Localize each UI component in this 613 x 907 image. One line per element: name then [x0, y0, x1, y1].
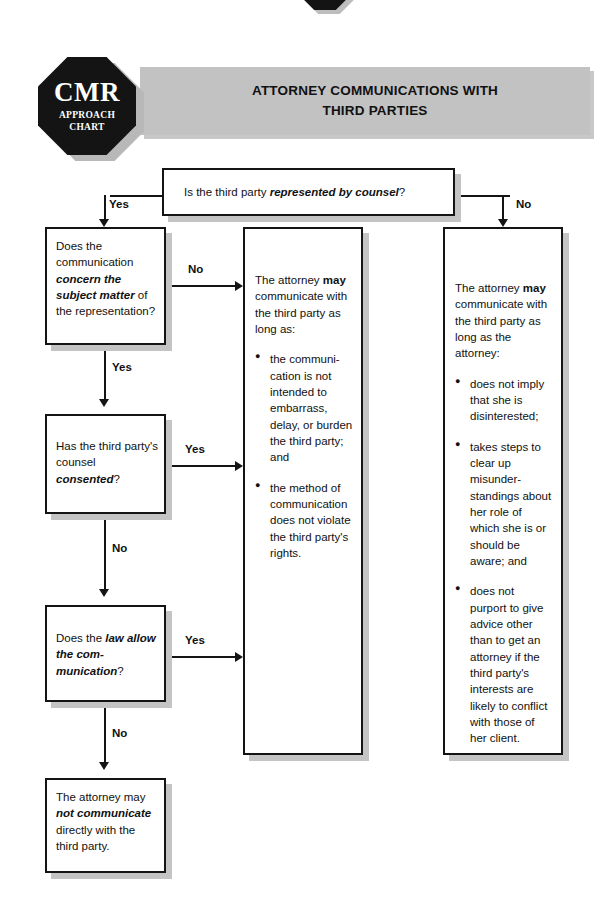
outcome-middle-lead-emphasis: may — [323, 274, 346, 286]
edge-q2-yes-arrowhead — [235, 461, 243, 471]
question-root-text: Is the third party represented by counse… — [164, 184, 405, 200]
edge-q1-no-horizontal — [165, 285, 237, 287]
edge-label-q0-no: No — [516, 198, 531, 210]
question-consented-text: Has the third party's counsel consented? — [47, 416, 164, 487]
page-title-line-1: ATTORNEY COMMUNICATIONS WITH — [252, 83, 498, 98]
edge-label-q3-no: No — [112, 727, 127, 739]
outcome-box-may-not-communicate: The attorney may not communicate directl… — [45, 778, 166, 873]
question-law-allows-text: Does the law allow the com­munication? — [47, 607, 164, 679]
question-law-allows-part1: Does the — [56, 632, 105, 644]
list-item: the method of communication does not vio… — [255, 480, 353, 562]
outcome-panel-may-communicate-conditions: The attorney may communicate with the th… — [243, 227, 363, 755]
question-subject-matter-part1: Does the communication — [56, 240, 133, 268]
edge-q2-no-vertical — [104, 514, 106, 590]
list-item: does not purport to give advice other th… — [455, 583, 553, 746]
edge-q1-yes-arrowhead — [99, 399, 109, 407]
question-consented-part1: Has the third party's counsel — [56, 440, 158, 468]
outcome-right-lead: The attorney may communicate with the th… — [455, 280, 553, 362]
logo-subtitle-line-1: APPROACH — [59, 110, 115, 120]
question-box-law-allows-communication: Does the law allow the com­munication? — [45, 605, 166, 702]
edge-label-q1-yes: Yes — [112, 361, 132, 373]
outcome-panel-unrepresented-party-conditions: The attorney may communicate with the th… — [443, 227, 563, 755]
edge-q0-yes-arrowhead — [99, 219, 109, 227]
edge-q2-yes-horizontal — [165, 465, 237, 467]
edge-label-q3-yes: Yes — [185, 634, 205, 646]
edge-q3-yes-horizontal — [165, 656, 237, 658]
question-consented-part2: ? — [114, 473, 120, 485]
outcome-may-not-part1: The attorney may — [56, 791, 145, 803]
logo-brand-text: CMR — [54, 79, 120, 106]
edge-q3-yes-arrowhead — [235, 652, 243, 662]
question-root-emphasis: represented by counsel — [270, 186, 399, 198]
outcome-may-not-emphasis: not communicate — [56, 807, 151, 819]
list-item: takes steps to clear up misunder­standin… — [455, 439, 553, 570]
edge-q0-no-arrowhead — [498, 219, 508, 227]
header-bar: ATTORNEY COMMUNICATIONS WITH THIRD PARTI… — [140, 67, 590, 135]
outcome-middle-lead: The attorney may communicate with the th… — [255, 272, 353, 337]
list-item: does not imply that she is disinterested… — [455, 376, 553, 425]
logo-subtitle: APPROACH CHART — [59, 110, 115, 133]
outcome-middle-bullet-list: the communi­cation is not intended to em… — [255, 351, 353, 561]
question-law-allows-part2: ? — [117, 665, 123, 677]
question-subject-matter-text: Does the communication concern the subje… — [47, 229, 164, 320]
question-root-prefix: Is the third party — [184, 186, 270, 198]
outcome-right-content: The attorney may communicate with the th… — [445, 229, 561, 747]
logo-subtitle-line-2: CHART — [69, 122, 104, 132]
outcome-may-not-part2: directly with the third party. — [56, 824, 135, 852]
edge-q1-yes-vertical — [104, 345, 106, 400]
question-consented-emphasis: consented — [56, 473, 114, 485]
flowchart-page: ATTORNEY COMMUNICATIONS WITH THIRD PARTI… — [0, 0, 613, 907]
outcome-right-bullet-list: does not imply that she is disinterested… — [455, 376, 553, 747]
edge-q0-no-vertical — [502, 195, 504, 221]
edge-label-q2-no: No — [112, 542, 127, 554]
edge-q3-no-vertical — [104, 702, 106, 762]
list-item: the communi­cation is not intended to em… — [255, 351, 353, 465]
edge-q3-no-arrowhead — [99, 762, 109, 770]
edge-q2-no-arrowhead — [99, 589, 109, 597]
outcome-middle-lead-part1: The attorney — [255, 274, 323, 286]
edge-label-q0-yes: Yes — [109, 198, 129, 210]
edge-label-q2-yes: Yes — [185, 443, 205, 455]
outcome-middle-content: The attorney may communicate with the th… — [245, 229, 361, 561]
question-root-suffix: ? — [399, 186, 405, 198]
page-title: ATTORNEY COMMUNICATIONS WITH THIRD PARTI… — [232, 81, 498, 120]
outcome-may-not-communicate-text: The attorney may not communicate directl… — [47, 780, 164, 854]
edge-label-q1-no: No — [188, 263, 203, 275]
edge-q0-yes-horizontal — [110, 195, 164, 197]
question-box-subject-matter: Does the communication concern the subje… — [45, 227, 166, 345]
edge-q1-no-arrowhead — [235, 281, 243, 291]
question-box-counsel-consented: Has the third party's counsel consented? — [45, 414, 166, 514]
outcome-right-lead-part2: communicate with the third party as long… — [455, 298, 547, 359]
page-title-line-2: THIRD PARTIES — [322, 103, 427, 118]
outcome-right-lead-part1: The attorney — [455, 282, 523, 294]
edge-q0-yes-vertical — [104, 195, 106, 221]
outcome-middle-lead-part2: communicate with the third party as long… — [255, 290, 347, 335]
outcome-right-lead-emphasis: may — [523, 282, 546, 294]
question-box-represented-by-counsel: Is the third party represented by counse… — [162, 168, 455, 216]
question-subject-matter-emphasis: concern the subject matter — [56, 273, 135, 301]
